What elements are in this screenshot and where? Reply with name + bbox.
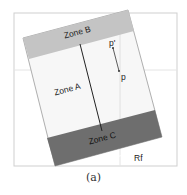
point-p [118,70,120,72]
rf-label: Rf [134,153,143,163]
diagram-canvas: Zone B Zone A Zone C p' p Rf [0,0,187,195]
figure-caption: (a) [0,171,187,184]
p-label: p [121,72,126,82]
p-prime-label: p' [109,38,116,48]
